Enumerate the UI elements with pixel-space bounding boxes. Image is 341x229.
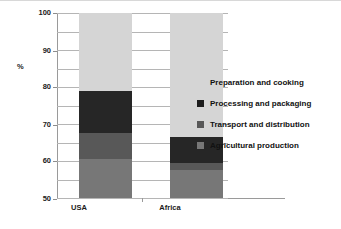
legend-swatch-icon xyxy=(197,142,204,149)
x-axis-label-usa: USA xyxy=(49,204,109,212)
y-axis-title: % xyxy=(17,63,24,71)
y-axis-tick xyxy=(53,125,57,126)
y-axis-tick-label: 100 xyxy=(38,9,51,17)
legend-item[interactable]: Transport and distribution xyxy=(197,114,311,135)
y-axis-tick-label: 60 xyxy=(43,157,51,165)
legend-label: Agricultural production xyxy=(210,142,299,150)
legend-item[interactable]: Agricultural production xyxy=(197,135,311,156)
bar-segment[interactable] xyxy=(79,13,132,91)
bar-segment[interactable] xyxy=(79,159,132,198)
legend-label: Transport and distribution xyxy=(210,121,310,129)
legend: Preparation and cookingProcessing and pa… xyxy=(197,72,311,156)
legend-swatch-icon xyxy=(197,121,204,128)
y-axis-tick-label: 70 xyxy=(43,121,51,129)
bar-segment[interactable] xyxy=(170,163,223,170)
legend-swatch-icon xyxy=(197,100,204,107)
bar-segment[interactable] xyxy=(79,91,132,134)
x-axis-category-divider xyxy=(142,198,143,202)
legend-item[interactable]: Processing and packaging xyxy=(197,93,311,114)
stacked-bar-chart: % 1009080706050403020100 USA Africa Prep… xyxy=(0,0,341,229)
bar-segment[interactable] xyxy=(170,170,223,198)
y-axis-tick-label: 80 xyxy=(43,83,51,91)
y-axis-tick-label: 50 xyxy=(43,195,51,203)
bar-segment[interactable] xyxy=(79,133,132,159)
legend-swatch-icon xyxy=(197,79,204,86)
legend-label: Processing and packaging xyxy=(210,100,311,108)
legend-item[interactable]: Preparation and cooking xyxy=(197,72,311,93)
legend-label: Preparation and cooking xyxy=(210,79,304,87)
y-axis-tick xyxy=(53,51,57,52)
x-axis-label-africa: Africa xyxy=(140,204,200,212)
y-axis-tick-label: 90 xyxy=(43,47,51,55)
y-axis-tick xyxy=(53,13,57,14)
y-axis-tick xyxy=(53,199,57,200)
